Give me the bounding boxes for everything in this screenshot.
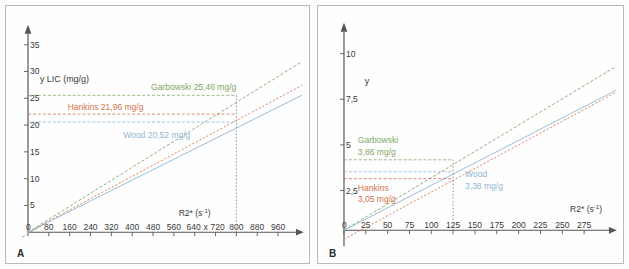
- x-tick-label: 150: [468, 220, 482, 230]
- panel-label-b: B: [329, 248, 337, 259]
- x-tick-label: 720: [210, 222, 224, 232]
- x-tick-label: 200: [512, 220, 526, 230]
- y-tick-label: 5: [30, 200, 35, 210]
- x-tick-label: 960: [271, 222, 285, 232]
- x-tick-label: 240: [83, 222, 97, 232]
- y-axis-arrow-a: [25, 25, 32, 34]
- x-axis-arrow-a: [296, 229, 304, 236]
- y-tick-label: 10: [346, 49, 356, 59]
- annotation-hankins-a: Hankins 21,96 mg/g: [68, 102, 144, 112]
- annotation-wood-b-label: Wood: [465, 169, 487, 179]
- panel-label-a: A: [17, 248, 25, 259]
- x-tick-label: 560: [167, 222, 181, 232]
- figure-container: 0 80 160 240 320 400 480 560 640 x 720 8…: [0, 0, 629, 269]
- x-axis-title-a: R2* (s-1): [179, 207, 211, 218]
- x-tick-label: 50: [383, 220, 393, 230]
- panel-b-plot: 0 25 50 75 100 125 150 175 200 225 250 2…: [318, 6, 623, 263]
- y-axis-title-a: y LIC (mg/g): [40, 74, 89, 84]
- y-tick-label: 15: [30, 147, 40, 157]
- annotation-garbowski-a: Garbowski 25,46 mg/g: [151, 82, 236, 92]
- y-tick-label: 20: [30, 120, 40, 130]
- x-tick-label: 100: [424, 220, 438, 230]
- x-tick-label: 320: [104, 222, 118, 232]
- y-axis-title-b: y: [365, 76, 370, 86]
- x-axis-marker-symbol: x: [203, 222, 208, 232]
- x-axis-title-b: R2* (s-1): [570, 203, 602, 214]
- x-tick-label: 160: [63, 222, 77, 232]
- annotation-wood-a: Wood 20,52 mg/g: [123, 130, 190, 140]
- x-tick-label: 175: [490, 220, 504, 230]
- y-tick-label: 25: [30, 93, 40, 103]
- panel-a: 0 80 160 240 320 400 480 560 640 x 720 8…: [5, 5, 310, 264]
- annotation-wood-b-value: 3,38 mg/g: [465, 181, 503, 191]
- x-axis-arrow-b: [609, 227, 617, 234]
- x-tick-label: 480: [146, 222, 160, 232]
- x-tick-label: 75: [405, 220, 415, 230]
- x-tick-label: 880: [250, 222, 264, 232]
- x-tick-label: 225: [533, 220, 547, 230]
- y-tick-label: 30: [30, 66, 40, 76]
- annotation-hankins-b-value: 3,05 mg/g: [358, 194, 396, 204]
- y-tick-label: 5: [346, 140, 351, 150]
- panel-a-plot: 0 80 160 240 320 400 480 560 640 x 720 8…: [6, 6, 309, 263]
- line-wood-a: [28, 95, 302, 232]
- annotation-garbowski-b-value: 3,86 mg/g: [358, 147, 396, 157]
- x-tick-label: 250: [555, 220, 569, 230]
- y-tick-label: 35: [30, 40, 40, 50]
- y-tick-label: 7,5: [346, 94, 358, 104]
- annotation-hankins-b-label: Hankins: [358, 183, 389, 193]
- x-tick-label: 640: [187, 222, 201, 232]
- y-tick-label: 10: [30, 174, 40, 184]
- x-tick-label: 400: [125, 222, 139, 232]
- panel-b: 0 25 50 75 100 125 150 175 200 225 250 2…: [317, 5, 624, 264]
- annotation-garbowski-b-label: Garbowski: [358, 135, 398, 145]
- y-axis-arrow-b: [341, 23, 348, 32]
- x-tick-label: 275: [577, 220, 591, 230]
- line-hankins-b: [344, 92, 616, 239]
- y-tick-label: 2,5: [346, 186, 358, 196]
